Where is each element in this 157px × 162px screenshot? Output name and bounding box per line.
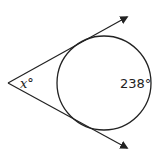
angle-label: x°: [20, 76, 34, 91]
arc-label: 238°: [120, 76, 151, 91]
upper-tangent-ray: [8, 17, 127, 83]
tangent-diagram: x° 238°: [0, 0, 157, 162]
lower-tangent-ray: [8, 83, 127, 148]
